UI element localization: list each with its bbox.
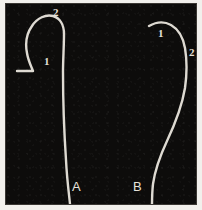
figure-container: 2 1 1 2 A B — [0, 0, 202, 210]
panel-label-b: B — [133, 180, 142, 193]
curve-a — [17, 15, 70, 204]
panel-label-a: A — [72, 180, 81, 193]
annotation-b-2: 2 — [189, 47, 195, 58]
annotation-a-1: 1 — [44, 56, 50, 67]
annotation-b-1: 1 — [158, 28, 164, 39]
curves-plot — [6, 4, 197, 205]
figure-panel: 2 1 1 2 A B — [5, 3, 197, 205]
curve-b — [149, 22, 187, 205]
annotation-a-2: 2 — [53, 7, 59, 18]
